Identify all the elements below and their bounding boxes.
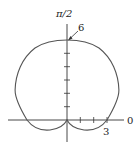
label-zero: 0 (127, 115, 133, 126)
polar-plot: π/2 6 0 3 (0, 0, 135, 151)
label-pi-over-2: π/2 (55, 8, 72, 19)
label-three: 3 (103, 126, 109, 137)
label-six: 6 (78, 22, 84, 33)
